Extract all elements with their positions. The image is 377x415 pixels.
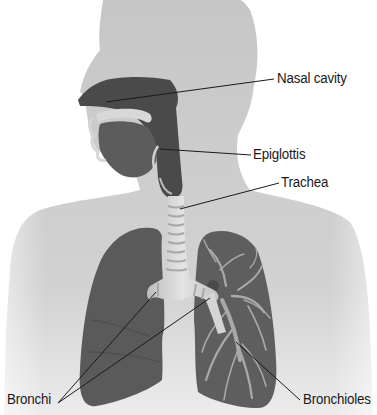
label-bronchioles: Bronchioles	[303, 391, 371, 407]
respiratory-system-diagram: Nasal cavity Epiglottis Trachea Bronchi …	[0, 0, 377, 415]
upper-airway	[78, 77, 183, 198]
anatomy-illustration	[0, 0, 377, 415]
body-silhouette	[0, 0, 377, 415]
label-epiglottis: Epiglottis	[253, 146, 305, 162]
label-trachea: Trachea	[281, 174, 328, 190]
label-nasal-cavity: Nasal cavity	[277, 70, 347, 86]
label-bronchi: Bronchi	[7, 391, 51, 407]
